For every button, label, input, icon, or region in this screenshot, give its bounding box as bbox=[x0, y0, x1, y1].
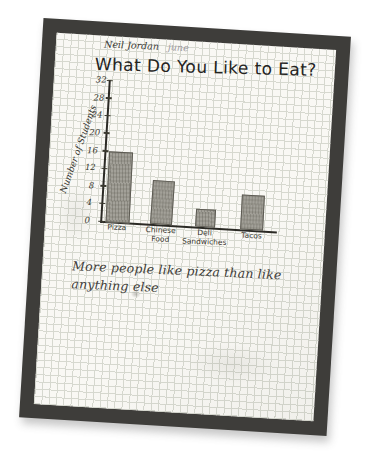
pencil-smudge bbox=[186, 341, 278, 386]
y-tick-mark bbox=[102, 150, 108, 152]
bar-chinese-food bbox=[150, 180, 175, 225]
chart-title: What Do You Like to Eat? bbox=[95, 54, 317, 80]
x-category-label-chinese-food: Chinese Food bbox=[136, 226, 185, 245]
photo-backdrop: Neil Jordanjune What Do You Like to Eat?… bbox=[0, 0, 365, 461]
annotation-caption: More people like pizza than like anythin… bbox=[71, 257, 302, 303]
dark-mat-frame: Neil Jordanjune What Do You Like to Eat?… bbox=[19, 18, 351, 436]
x-category-label-tacos: Tacos bbox=[227, 231, 275, 241]
y-tick-mark bbox=[104, 132, 110, 134]
y-tick-mark bbox=[99, 203, 105, 205]
plot-area: 322824201612840PizzaChinese FoodDeli San… bbox=[100, 80, 285, 234]
pencil-note: june bbox=[168, 41, 189, 53]
y-tick-mark bbox=[105, 115, 111, 117]
y-tick-label-8: 8 bbox=[88, 181, 93, 190]
graph-paper: Neil Jordanjune What Do You Like to Eat?… bbox=[34, 33, 336, 421]
bar-tacos bbox=[240, 194, 265, 230]
y-tick-mark bbox=[107, 79, 113, 81]
y-tick-label-32: 32 bbox=[96, 76, 107, 85]
y-tick-mark bbox=[101, 167, 107, 169]
y-tick-label-24: 24 bbox=[92, 111, 103, 120]
student-name-line: Neil Jordanjune bbox=[104, 38, 189, 53]
pencil-smudge bbox=[54, 183, 98, 245]
student-name: Neil Jordan bbox=[104, 38, 159, 51]
x-category-label-deli-sandwiches: Deli Sandwiches bbox=[180, 228, 229, 247]
y-tick-label-20: 20 bbox=[89, 128, 100, 137]
y-tick-label-0: 0 bbox=[84, 216, 89, 225]
bar-pizza bbox=[106, 151, 134, 223]
bar-deli-sandwiches bbox=[195, 209, 216, 228]
y-tick-label-4: 4 bbox=[86, 198, 91, 207]
y-tick-mark bbox=[98, 220, 104, 222]
y-tick-mark bbox=[106, 97, 112, 99]
y-tick-label-28: 28 bbox=[94, 93, 105, 102]
y-tick-label-12: 12 bbox=[85, 163, 96, 172]
x-category-label-pizza: Pizza bbox=[93, 223, 141, 233]
y-tick-mark bbox=[100, 185, 106, 187]
y-tick-label-16: 16 bbox=[87, 146, 98, 155]
